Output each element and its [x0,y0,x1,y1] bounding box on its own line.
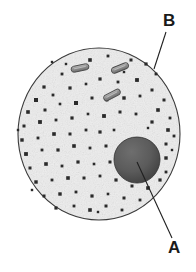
cytoplasm-granule [163,99,166,102]
cytoplasm-granule [75,191,78,194]
cytoplasm-granule [31,189,33,191]
cytoplasm-granule [29,167,32,170]
cytoplasm-granule [69,133,72,136]
cytoplasm-granule [97,211,99,213]
cytoplasm-granule [85,129,88,132]
label-a: A [168,238,180,257]
cytoplasm-granule [37,137,40,140]
cytoplasm-granule [102,114,106,118]
cytoplasm-granule [91,97,94,100]
cytoplasm-granule [88,58,92,62]
cytoplasm-granule [44,109,47,112]
cytoplasm-granule [52,94,55,97]
cytoplasm-granule [58,192,61,195]
cytoplasm-granule [34,180,37,183]
cytoplasm-granule [89,147,92,150]
cytoplasm-granule [54,206,57,209]
cytoplasm-granule [165,143,168,146]
cytoplasm-granule [158,178,161,181]
cytoplasm-granule [76,160,79,163]
cytoplasm-granule [165,171,168,174]
cytoplasm-granule [98,130,101,133]
cytoplasm-granule [135,78,139,82]
cytoplasm-granule [72,144,76,148]
cytoplasm-granule [52,132,56,136]
cytoplasm-granule [173,135,176,138]
cytoplasm-granule [113,129,116,132]
cytoplasm-granule [99,175,102,178]
nucleus [114,137,160,183]
cytoplasm-granule [90,194,93,197]
cytoplasm-granule [105,205,108,208]
cytoplasm-granule [74,101,78,105]
cytoplasm-granule [98,77,101,80]
cytoplasm-granule [42,85,45,88]
cytoplasm-granule [83,177,86,180]
cytoplasm-granule [117,81,120,84]
cytoplasm-granule [139,199,142,202]
cytoplasm-granule [70,116,73,119]
cytoplasm-granule [150,120,153,123]
cytoplasm-granule [55,119,58,122]
cytoplasm-granule [61,73,64,76]
cytoplasm-granule [121,209,124,212]
cytoplasm-granule [88,208,92,212]
cytoplasm-granule [41,149,44,152]
nucleus-body [114,137,160,183]
cytoplasm-granule [65,63,67,65]
cytoplasm-granule [156,108,160,112]
cytoplasm-granule [68,86,71,89]
cytoplasm-granule [105,145,108,148]
cytoplasm-granule [107,55,110,58]
cytoplasm-granule [123,71,125,73]
cytoplasm-granule [130,59,133,62]
cytoplasm-granule [114,178,117,181]
cytoplasm-granule [109,161,112,164]
cytoplasm-granule [155,73,158,76]
cytoplasm-granule [38,120,42,124]
cytoplasm-granule [151,89,154,92]
cytoplasm-granule [51,179,54,182]
cytoplasm-granule [56,148,59,151]
cytoplasm-granule [66,176,70,180]
cytoplasm-granule [20,138,23,141]
label-b: B [163,11,175,30]
cytoplasm-granule [164,156,167,159]
cytoplasm-granule [122,96,125,99]
cytoplasm-granule [73,205,76,208]
cytoplasm-granule [24,152,28,156]
cytoplasm-granule [61,165,64,168]
diagram-canvas: A B [0,0,196,272]
cytoplasm-granule [51,61,53,63]
cytoplasm-granule [169,117,172,120]
cytoplasm-granule [144,62,147,65]
cytoplasm-granule [59,103,62,106]
cytoplasm-granule [34,98,38,102]
cytoplasm-granule [119,111,122,114]
cytoplasm-granule [135,113,138,116]
cytoplasm-granule [26,110,30,114]
cytoplasm-granule [87,113,90,116]
cytoplasm-granule [44,162,48,166]
cytoplasm-granule [171,149,173,151]
cytoplasm-granule [166,128,170,132]
cytoplasm-granule [23,125,26,128]
cytoplasm-granule [93,163,96,166]
cytoplasm-granule [123,197,126,200]
cytoplasm-granule [107,193,110,196]
cytoplasm-granule [43,195,46,198]
cytoplasm-granule [147,127,149,129]
cytoplasm-granule [17,129,19,131]
cytoplasm-granule [85,83,88,86]
cell-diagram-figure: A B [0,0,196,272]
cytoplasm-granule [139,95,142,98]
cytoplasm-granule [131,185,134,188]
